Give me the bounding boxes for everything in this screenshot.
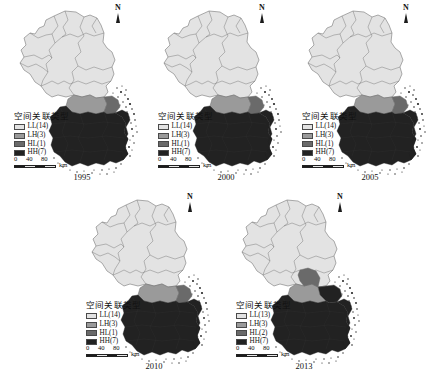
north-arrow-letter: N (332, 193, 348, 201)
scale-seg-4 (267, 355, 277, 356)
legend-label-HL: HL(1) (316, 141, 334, 148)
map-panel-2000: N空间关联类型LL(14)LH(3)HL(1)HH(7)04080km2000 (152, 0, 300, 190)
north-arrow-letter: N (110, 4, 126, 12)
legend-swatch-LL (236, 313, 247, 319)
legend-item-LH: LH(3) (302, 132, 357, 140)
scale-bar-unit: km (281, 351, 289, 358)
scale-seg-4 (45, 166, 55, 167)
scale-seg-2 (313, 166, 323, 167)
map-panel-2010: N空间关联类型LL(14)LH(3)HL(1)HH(7)04080km2010 (80, 189, 228, 379)
scale-bar: 04080km (86, 345, 130, 357)
legend-item-LL: LL(14) (14, 123, 69, 131)
scale-tick-0: 0 (302, 156, 305, 163)
legend-label-LH: LH(3) (100, 321, 118, 328)
legend-label-LH: LH(3) (250, 321, 268, 328)
scale-bar-ticks: 04080 (158, 156, 202, 164)
panel-year-label: 2010 (132, 361, 176, 371)
scale-bar-ticks: 04080 (302, 156, 346, 164)
scale-tick-40: 40 (248, 345, 255, 352)
legend-swatch-LL (14, 124, 25, 130)
map-panel-1995: N空间关联类型LL(14)LH(3)HL(1)HH(7)04080km1995 (8, 0, 156, 190)
scale-tick-40: 40 (314, 156, 321, 163)
scale-bar-unit: km (347, 162, 355, 169)
legend-label-LH: LH(3) (172, 132, 190, 139)
legend-title: 空间关联类型 (302, 112, 357, 121)
scale-bar-graphic (302, 165, 344, 168)
scale-seg-2 (25, 166, 35, 167)
scale-seg-3 (257, 355, 267, 356)
map-panel-2013: N空间关联类型LL(13)LH(3)HL(2)HH(7)04080km2013 (230, 189, 378, 379)
scale-seg-1 (303, 166, 313, 167)
legend-item-HL: HL(1) (302, 140, 357, 148)
legend-item-HL: HL(1) (86, 329, 141, 337)
map-panel-2005: N空间关联类型LL(14)LH(3)HL(1)HH(7)04080km2005 (296, 0, 444, 190)
scale-seg-1 (15, 166, 25, 167)
legend-swatch-LH (236, 322, 247, 328)
legend: 空间关联类型LL(13)LH(3)HL(2)HH(7) (236, 301, 291, 346)
scale-bar-graphic (86, 354, 128, 357)
legend-swatch-LH (86, 322, 97, 328)
scale-seg-1 (87, 355, 97, 356)
legend-label-LH: LH(3) (316, 132, 334, 139)
north-arrow-letter: N (398, 4, 414, 12)
scale-tick-0: 0 (236, 345, 239, 352)
scale-bar-unit: km (203, 162, 211, 169)
legend: 空间关联类型LL(14)LH(3)HL(1)HH(7) (86, 301, 141, 346)
scale-bar-ticks: 04080 (236, 345, 280, 353)
legend-item-HL: HL(1) (14, 140, 69, 148)
panel-year-label: 2005 (348, 172, 392, 182)
legend-item-HL: HL(2) (236, 329, 291, 337)
legend-item-LH: LH(3) (14, 132, 69, 140)
north-arrow-glyph (260, 13, 264, 23)
north-arrow-icon: N (332, 193, 348, 212)
legend-label-HL: HL(1) (172, 141, 190, 148)
north-arrow-icon: N (110, 4, 126, 23)
legend-swatch-HL (86, 330, 97, 336)
scale-seg-4 (189, 166, 199, 167)
legend-label-LL: LL(14) (172, 123, 193, 130)
legend-item-LL: LL(14) (86, 312, 141, 320)
legend-label-HL: HL(1) (100, 330, 118, 337)
scale-bar-unit: km (59, 162, 67, 169)
legend-item-LH: LH(3) (236, 321, 291, 329)
legend-label-LL: LL(14) (316, 123, 337, 130)
legend: 空间关联类型LL(14)LH(3)HL(1)HH(7) (158, 112, 213, 157)
scale-tick-40: 40 (170, 156, 177, 163)
panel-year-label: 1995 (60, 172, 104, 182)
scale-bar-graphic (14, 165, 56, 168)
legend-title: 空间关联类型 (86, 301, 141, 310)
legend-label-LL: LL(13) (250, 312, 271, 319)
scale-bar: 04080km (236, 345, 280, 357)
scale-tick-0: 0 (86, 345, 89, 352)
legend-item-LL: LL(14) (158, 123, 213, 131)
scale-seg-3 (179, 166, 189, 167)
panel-year-label: 2013 (282, 361, 326, 371)
scale-bar-unit: km (131, 351, 139, 358)
scale-seg-2 (97, 355, 107, 356)
north-arrow-icon: N (182, 193, 198, 212)
scale-bar: 04080km (158, 156, 202, 168)
scale-seg-4 (333, 166, 343, 167)
legend-swatch-LL (158, 124, 169, 130)
legend-swatch-HL (302, 141, 313, 147)
scale-bar-ticks: 04080 (86, 345, 130, 353)
scale-seg-2 (247, 355, 257, 356)
north-arrow-letter: N (254, 4, 270, 12)
scale-tick-0: 0 (158, 156, 161, 163)
north-arrow-icon: N (254, 4, 270, 23)
scale-tick-80: 80 (263, 345, 270, 352)
north-arrow-icon: N (398, 4, 414, 23)
north-arrow-glyph (404, 13, 408, 23)
legend-item-LH: LH(3) (86, 321, 141, 329)
north-arrow-letter: N (182, 193, 198, 201)
legend-swatch-LL (86, 313, 97, 319)
legend-label-LL: LL(14) (28, 123, 49, 130)
north-arrow-glyph (188, 202, 192, 212)
scale-tick-0: 0 (14, 156, 17, 163)
legend-item-LL: LL(13) (236, 312, 291, 320)
scale-seg-3 (323, 166, 333, 167)
scale-bar: 04080km (302, 156, 346, 168)
scale-seg-1 (159, 166, 169, 167)
scale-seg-3 (35, 166, 45, 167)
panel-year-label: 2000 (204, 172, 248, 182)
